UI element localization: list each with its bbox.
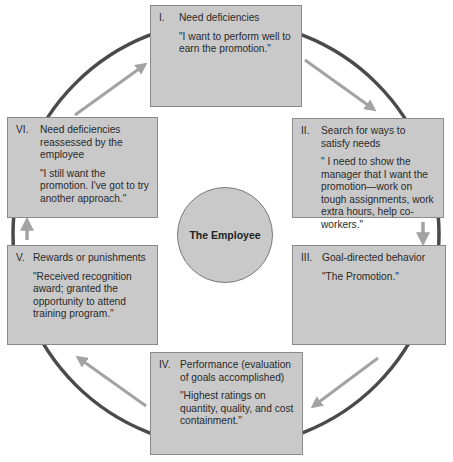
arrow-iii-to-iv [315,358,378,405]
stage-quote: "The Promotion." [322,271,437,284]
center-label: The Employee [189,229,260,241]
stage-numeral: I. [159,12,179,25]
stage-box-v: V. Rewards or punishments "Received reco… [7,245,158,345]
stage-title: Rewards or punishments [33,252,149,265]
stage-title: Performance (evaluation of goals accompl… [180,359,294,384]
stage-box-vi: VI. Need deficiencies reassessed by the … [7,117,158,218]
stage-numeral: V. [16,252,33,265]
stage-box-iii: III. Goal-directed behavior "The Promoti… [292,245,446,345]
stage-quote: "Received recognition award; granted the… [33,271,149,321]
stage-box-ii: II. Search for ways to satisfy needs " I… [292,118,444,218]
stage-numeral: IV. [159,359,180,384]
stage-title: Need deficiencies reassessed by the empl… [40,124,149,162]
center-circle-employee: The Employee [177,187,273,283]
stage-quote: "I want to perform well to earn the prom… [179,31,293,56]
stage-title: Search for ways to satisfy needs [321,125,435,150]
stage-numeral: II. [301,125,321,150]
stage-numeral: VI. [16,124,40,162]
stage-box-i: I. Need deficiencies "I want to perform … [150,5,302,107]
stage-quote: "I still want the promotion. I've got to… [40,168,149,206]
arrow-i-to-ii [305,60,372,108]
stage-quote: " I need to show the manager that I want… [321,156,435,231]
stage-title: Need deficiencies [179,12,293,25]
stage-quote: "Highest ratings on quantity, quality, a… [180,390,294,428]
stage-numeral: III. [301,252,322,265]
stage-title: Goal-directed behavior [322,252,437,265]
stage-box-iv: IV. Performance (evaluation of goals acc… [150,352,303,455]
